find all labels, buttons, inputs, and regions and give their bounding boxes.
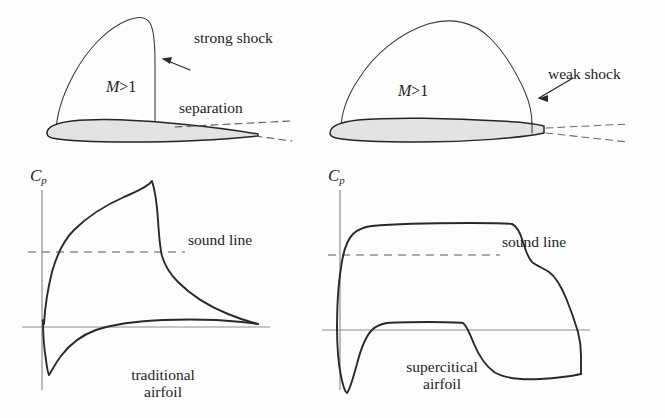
separation-label: separation: [179, 99, 243, 116]
sound-line-label-right: sound line: [502, 233, 566, 250]
strong-shock-label: strong shock: [194, 29, 273, 46]
supersonic-region-outline-right: [341, 21, 532, 134]
traditional-airfoil-caption: traditional airfoil: [108, 366, 218, 401]
airfoil-comparison-figure: [0, 0, 665, 418]
weak-shock-label: weak shock: [548, 65, 621, 82]
wake-lower-right: [546, 133, 628, 142]
separation-wake-lower-left: [255, 136, 292, 141]
strong-shock-arrow: [162, 57, 190, 70]
traditional-airfoil-body: [47, 120, 258, 142]
supersonic-label-right: M>1: [398, 82, 428, 100]
supercritical-airfoil-body: [330, 118, 544, 142]
sound-line-label-left: sound line: [188, 231, 252, 248]
supercritical-airfoil-caption: supercitical airfoil: [382, 358, 502, 393]
wake-upper-right: [546, 124, 628, 128]
supersonic-label-left: M>1: [106, 78, 136, 96]
bottom-left-cp-plot: [22, 181, 270, 390]
cp-axis-label-right: Cp: [328, 166, 345, 185]
figure-canvas: M>1 strong shock separation M>1 weak sho…: [0, 0, 665, 418]
separation-wake-upper-left: [175, 121, 290, 127]
supersonic-region-outline-left: [56, 18, 155, 134]
cp-axis-label-left: Cp: [30, 166, 47, 185]
